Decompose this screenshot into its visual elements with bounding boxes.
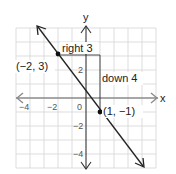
tick-y-neg4: −4 bbox=[73, 149, 83, 159]
coordinate-plane: x y −4 −2 0 2 −2 −4 right 3 down 4 (−2, … bbox=[0, 0, 176, 174]
point-b-marker bbox=[98, 110, 103, 115]
run-label: right 3 bbox=[62, 42, 93, 54]
point-b-label: (1, −1) bbox=[103, 105, 135, 117]
tick-origin: 0 bbox=[77, 102, 82, 112]
x-axis-label: x bbox=[160, 92, 166, 104]
point-a-marker bbox=[56, 52, 61, 57]
y-axis-label: y bbox=[83, 11, 89, 23]
tick-y-neg2: −2 bbox=[73, 121, 83, 131]
point-a-label: (−2, 3) bbox=[16, 60, 48, 72]
tick-x-neg4: −4 bbox=[19, 102, 29, 112]
x-axis bbox=[16, 93, 158, 103]
tick-y-2: 2 bbox=[78, 65, 83, 75]
tick-x-neg2: −2 bbox=[47, 102, 57, 112]
rise-label: down 4 bbox=[102, 72, 137, 84]
